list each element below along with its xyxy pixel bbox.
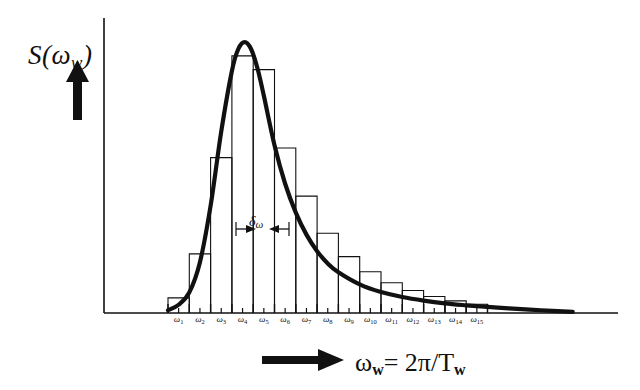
histogram-bars	[168, 56, 488, 313]
tick-label-index: 15	[477, 318, 484, 325]
histogram-bar	[253, 70, 274, 313]
wave-spectrum-figure: S(ωw) ωw= 2π/Tw δω ω1ω2ω3ω4ω5ω6ω7ω8ω9ω10…	[0, 0, 640, 390]
tick-label-index: 3	[223, 318, 226, 325]
bandwidth-omega: ω	[256, 218, 264, 230]
x-axis-tick-label: ω14	[449, 314, 462, 325]
histogram-bar	[232, 56, 253, 313]
tick-label-index: 10	[370, 318, 377, 325]
x-axis-tick-label: ω2	[195, 314, 205, 325]
tick-label-index: 4	[244, 318, 247, 325]
tick-label-index: 14	[455, 318, 462, 325]
tick-label-index: 1	[180, 318, 183, 325]
x-axis-tick-label: ω15	[470, 314, 483, 325]
tick-label-index: 13	[434, 318, 441, 325]
x-axis-tick-label: ω1	[174, 314, 184, 325]
x-axis-tick-label: ω7	[302, 314, 312, 325]
y-axis-label-subscript: w	[71, 53, 83, 72]
x-axis-tick-label: ω12	[407, 314, 420, 325]
right-arrow-shaft	[262, 356, 324, 364]
x-axis-tick-label: ω13	[428, 314, 441, 325]
right-arrow-icon	[262, 349, 344, 371]
x-axis-label-omega: ω	[355, 348, 372, 377]
right-arrow-head	[318, 349, 344, 371]
x-axis-tick-label: ω5	[259, 314, 269, 325]
tick-label-index: 12	[413, 318, 420, 325]
x-axis-tick-label: ω6	[280, 314, 290, 325]
tick-label-index: 11	[392, 318, 398, 325]
x-axis-tick-label: ω10	[364, 314, 377, 325]
tick-label-index: 8	[329, 318, 332, 325]
y-axis-label: S(ωw)	[28, 42, 92, 71]
bandwidth-label: δω	[249, 215, 263, 230]
tick-label-index: 2	[201, 318, 204, 325]
y-axis-label-suffix: )	[83, 40, 93, 70]
spectrum-plot	[0, 0, 640, 390]
y-axis-label-prefix: S(	[28, 40, 52, 70]
y-axis-label-omega: ω	[52, 40, 72, 70]
x-axis-tick-label: ω4	[238, 314, 248, 325]
histogram-bar	[296, 196, 317, 313]
x-axis-tick-label: ω11	[385, 314, 398, 325]
tick-label-index: 9	[351, 318, 354, 325]
x-axis-tick-label: ω8	[323, 314, 333, 325]
x-axis-tick-label: ω9	[344, 314, 354, 325]
up-arrow-shaft	[73, 78, 82, 120]
tick-label-index: 6	[287, 318, 290, 325]
tick-label-index: 5	[265, 318, 268, 325]
tick-label-index: 7	[308, 318, 311, 325]
histogram-bar	[317, 233, 338, 313]
x-axis-ticks	[168, 304, 488, 313]
x-axis-label-expression: = 2π/T	[384, 348, 454, 377]
x-axis-tick-label: ω3	[216, 314, 226, 325]
x-axis-label-period-subscript: w	[454, 361, 466, 378]
x-axis-label-subscript: w	[372, 361, 384, 378]
x-axis-label: ωw= 2π/Tw	[355, 350, 466, 378]
